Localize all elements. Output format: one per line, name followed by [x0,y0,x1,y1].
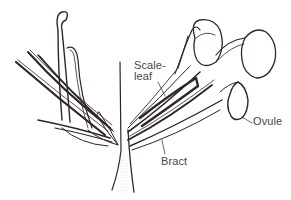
ovule-label: Ovule [253,116,282,127]
bract-label: Bract [161,156,187,167]
ovule-upper-left [193,20,222,66]
right-scale-cluster [128,27,222,150]
bract-leader [162,140,165,154]
main-stem [112,62,134,192]
scale-leaf-label-continued: leaf [134,71,152,82]
left-scale-cluster [16,50,118,146]
ovule-leader [242,117,252,123]
plant-illustration [0,0,291,200]
ovule-lower [220,82,248,120]
scale-leaf-leader [158,82,165,96]
ovule-upper-right [216,30,276,78]
botanical-figure: Scale- leaf Bract Ovule [0,0,291,200]
